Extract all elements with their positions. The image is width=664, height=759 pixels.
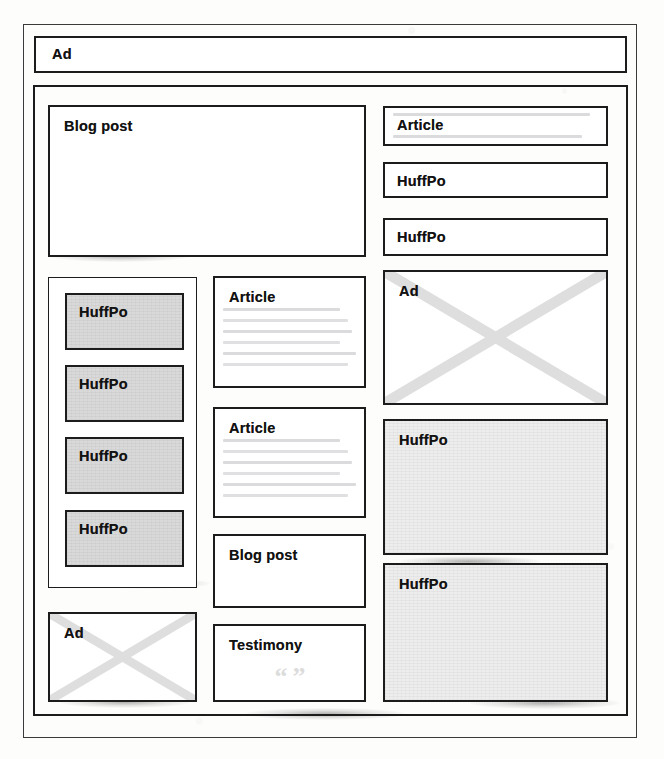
- left-huffpo-item-4[interactable]: HuffPo: [65, 510, 184, 567]
- left-huffpo-item-1[interactable]: HuffPo: [65, 293, 184, 350]
- right-huffpo-3-label: HuffPo: [399, 432, 448, 448]
- ad-bottom-left[interactable]: Ad: [48, 612, 197, 702]
- right-article-1[interactable]: Article: [383, 106, 608, 146]
- ad-bottom-left-label: Ad: [64, 625, 84, 641]
- right-huffpo-4-label: HuffPo: [399, 576, 448, 592]
- page-canvas: Ad Blog post HuffPo HuffPo HuffPo HuffPo…: [0, 0, 664, 759]
- ad-banner-top-label: Ad: [52, 46, 72, 62]
- middle-testimony[interactable]: Testimony “”: [213, 624, 366, 702]
- middle-testimony-label: Testimony: [229, 637, 302, 653]
- quote-marks-icon: “”: [274, 662, 310, 692]
- hero-blog-post-label: Blog post: [64, 118, 133, 134]
- right-huffpo-4[interactable]: HuffPo: [383, 563, 608, 702]
- middle-blog-post-label: Blog post: [229, 547, 298, 563]
- right-huffpo-3[interactable]: HuffPo: [383, 419, 608, 555]
- right-huffpo-1[interactable]: HuffPo: [383, 162, 608, 198]
- left-huffpo-item-4-label: HuffPo: [79, 521, 128, 537]
- right-huffpo-2[interactable]: HuffPo: [383, 218, 608, 256]
- ad-right[interactable]: Ad: [383, 270, 608, 405]
- middle-blog-post[interactable]: Blog post: [213, 534, 366, 608]
- middle-article-1[interactable]: Article: [213, 276, 366, 388]
- middle-article-1-label: Article: [229, 289, 276, 305]
- hero-blog-post[interactable]: Blog post: [48, 105, 366, 257]
- left-huffpo-item-3-label: HuffPo: [79, 448, 128, 464]
- left-huffpo-item-2[interactable]: HuffPo: [65, 365, 184, 422]
- ad-banner-top[interactable]: Ad: [34, 36, 627, 73]
- right-article-1-label: Article: [397, 117, 444, 133]
- left-huffpo-item-3[interactable]: HuffPo: [65, 437, 184, 494]
- middle-article-2[interactable]: Article: [213, 407, 366, 518]
- middle-article-2-label: Article: [229, 420, 276, 436]
- left-huffpo-item-1-label: HuffPo: [79, 304, 128, 320]
- left-huffpo-item-2-label: HuffPo: [79, 376, 128, 392]
- right-huffpo-1-label: HuffPo: [397, 173, 446, 189]
- right-huffpo-2-label: HuffPo: [397, 229, 446, 245]
- ad-right-label: Ad: [399, 283, 419, 299]
